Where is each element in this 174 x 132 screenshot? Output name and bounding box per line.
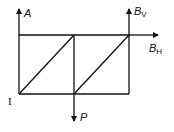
right-diagonal [74,35,129,94]
force-arrows [19,9,158,121]
left-diagonal [19,35,74,94]
label-i: I [8,95,12,107]
truss-diagram: A BV BH P I [0,0,174,132]
label-bh: BH [149,42,162,56]
label-a: A [23,7,31,19]
truss-members [19,35,129,94]
label-bv: BV [134,5,147,19]
label-p: P [80,111,88,123]
